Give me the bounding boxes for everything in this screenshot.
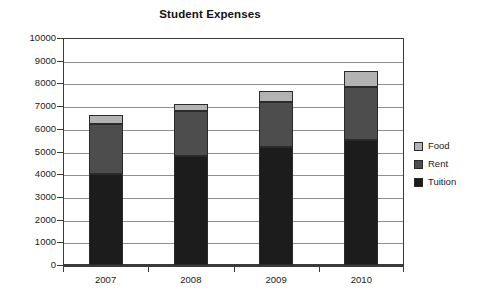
bar-stack[interactable] — [174, 38, 208, 265]
legend-swatch-food-icon — [414, 142, 423, 151]
bar-segment-tuition[interactable] — [344, 140, 378, 265]
x-axis-tick-mark — [148, 265, 149, 272]
bar-segment-food[interactable] — [344, 71, 378, 87]
legend-label: Rent — [428, 159, 448, 169]
bar-segment-tuition[interactable] — [259, 147, 293, 265]
bar-segment-rent[interactable] — [344, 87, 378, 140]
legend-item-tuition[interactable]: Tuition — [414, 173, 482, 191]
bars-layer — [63, 38, 404, 265]
x-axis-tick-label: 2007 — [95, 274, 116, 286]
bar-stack[interactable] — [89, 38, 123, 265]
chart-title: Student Expenses — [0, 8, 420, 20]
bar-segment-food[interactable] — [174, 104, 208, 111]
legend-swatch-rent-icon — [414, 160, 423, 169]
bar-stack[interactable] — [259, 38, 293, 265]
bar-segment-rent[interactable] — [259, 102, 293, 147]
chart-legend: FoodRentTuition — [414, 137, 482, 191]
x-axis-tick-labels: 2007200820092010 — [63, 274, 404, 290]
y-axis-tick-marks — [0, 38, 63, 265]
x-axis-tick-mark — [234, 265, 235, 272]
bar-segment-food[interactable] — [89, 115, 123, 124]
bar-segment-food[interactable] — [259, 91, 293, 101]
bar-segment-rent[interactable] — [89, 124, 123, 174]
x-axis-tick-mark — [403, 265, 404, 272]
legend-swatch-tuition-icon — [414, 178, 423, 187]
legend-label: Food — [428, 141, 450, 151]
legend-item-rent[interactable]: Rent — [414, 155, 482, 173]
x-axis-tick-mark — [63, 265, 64, 272]
legend-label: Tuition — [428, 177, 456, 187]
chart-container: Student Expenses 10000900080007000600050… — [0, 0, 484, 302]
bar-segment-rent[interactable] — [174, 111, 208, 156]
x-axis-tick-mark — [319, 265, 320, 272]
bar-stack[interactable] — [344, 38, 378, 265]
legend-item-food[interactable]: Food — [414, 137, 482, 155]
x-axis-tick-label: 2008 — [180, 274, 201, 286]
x-axis-tick-label: 2009 — [266, 274, 287, 286]
bar-segment-tuition[interactable] — [174, 156, 208, 265]
x-axis-tick-label: 2010 — [351, 274, 372, 286]
x-axis-tick-marks — [63, 265, 404, 272]
bar-segment-tuition[interactable] — [89, 174, 123, 265]
